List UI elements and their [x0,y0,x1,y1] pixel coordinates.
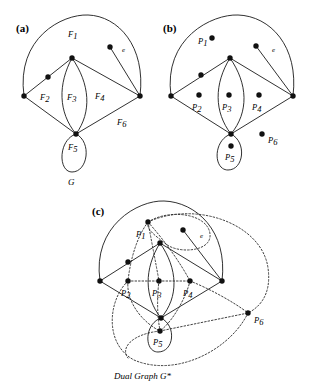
face-point-label-P6: P6 [267,135,278,147]
face-label-F6: F6 [116,117,127,129]
dual-edge-P2-P6-outer-arc [112,281,248,366]
panel-c-label: (c) [92,205,105,218]
vertex-degree2 [125,259,130,264]
panel-b-label: (b) [163,22,177,35]
face-label-F4: F4 [94,91,105,103]
dual-edge-P1-P3 [148,222,159,281]
vertex-right [219,278,224,283]
vertex-top [69,55,74,60]
outer-face-arc [170,15,294,96]
pendant-edge-e [110,47,140,96]
dual-point-P1 [145,219,150,224]
vertex-left [97,278,102,283]
dual-point-P2 [125,278,130,283]
dual-point-label-P1: P1 [135,229,145,241]
edge-top-right [230,58,293,96]
vertex-top [157,240,162,245]
dual-point-label-P2: P2 [120,288,131,300]
panel-a-face-labels: F1 F2 F3 F4 F5 F6 [39,29,127,154]
face-point-P6 [259,131,264,136]
vertex-left [21,93,26,98]
dual-edge-P5-P6 [160,313,248,331]
face-point-P4 [256,92,261,97]
panel-a: (a) e [16,15,143,187]
vertex-bottom [158,315,163,320]
face-label-F5: F5 [67,142,77,154]
face-point-label-P2: P2 [191,102,202,114]
vertex-bottom [228,131,233,136]
face-point-P1 [209,35,214,40]
dual-point-label-P5: P5 [152,337,162,349]
figure-svg: (a) e [0,0,310,387]
panel-a-label: (a) [16,22,29,35]
vertex-right [137,93,142,98]
figure-caption: Dual Graph G* [113,371,172,381]
panel-b-face-point-labels: P1 P2 P3 P4 P5 P6 [191,36,278,164]
dual-point-P4 [187,278,192,283]
edge-bottom-right [231,96,293,134]
dual-point-label-P3: P3 [151,288,161,300]
vertex-degree2 [45,74,50,79]
panel-a-edge-label-e: e [122,46,125,54]
face-point-P2 [196,92,201,97]
face-label-F3: F3 [66,92,76,104]
panel-b: (b) e [163,15,296,170]
panel-c-dual-point-labels: P1 P2 P3 P4 P5 P6 [120,229,264,349]
face-label-F1: F1 [67,29,77,41]
panel-b-edge-label-e: e [272,46,275,54]
face-point-P5 [228,143,233,148]
vertex-pendant [107,44,112,49]
dual-point-P6 [245,310,250,315]
face-point-label-P4: P4 [251,102,262,114]
dual-edge-P3-P5 [158,281,160,330]
panel-c-edge-label-e: e [200,232,203,240]
vertex-degree2 [198,72,203,77]
dual-point-P5 [157,328,162,333]
edge-bottom-right [76,96,140,134]
panel-c: (c) [92,201,269,381]
vertex-bottom [73,131,78,136]
edge-top-right [160,243,222,281]
dual-point-P3 [156,278,161,283]
face-label-F2: F2 [39,92,50,104]
vertex-pendant [253,43,258,48]
face-point-P3 [226,92,231,97]
dual-point-label-P6: P6 [253,315,264,327]
face-point-label-P5: P5 [224,152,234,164]
vertex-right [290,93,295,98]
face-point-label-P1: P1 [197,36,207,48]
edge-top-bottom-right-arc [230,58,244,134]
panel-a-graph-name: G [68,177,75,187]
dual-edge-P4-P6 [190,281,248,313]
edge-top-bottom-right-arc [160,243,174,318]
figure-root: (a) e [0,0,310,387]
outer-face-arc [23,15,141,96]
vertex-pendant [180,227,185,232]
vertex-top [227,55,232,60]
face-point-label-P3: P3 [221,102,231,114]
vertex-left [168,93,173,98]
